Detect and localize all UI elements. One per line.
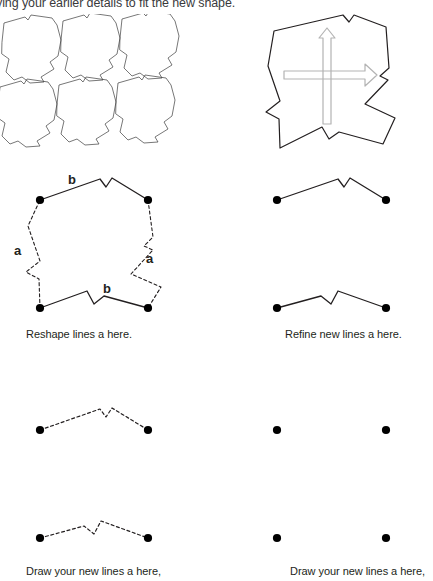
tile-r2c3 xyxy=(116,75,175,143)
endpoint-dot-upper-right xyxy=(382,196,390,204)
edge-b-bottom xyxy=(40,291,148,308)
corner-dots xyxy=(36,196,152,312)
instruction-text: ying your earlier details to fit the new… xyxy=(0,0,235,10)
endpoint-dot-lower-left xyxy=(273,304,281,312)
draw-left-polyline-lower xyxy=(40,521,148,538)
caption-draw-right: Draw your new lines a here, xyxy=(290,565,425,577)
endpoint-dot-lower-right xyxy=(382,304,390,312)
edge-a-left xyxy=(26,200,40,308)
edge-b-top xyxy=(40,178,148,200)
tile-r2c1 xyxy=(0,79,57,147)
endpoint-dot-upper-left xyxy=(273,196,281,204)
endpoint-dot-lower-right xyxy=(144,534,152,542)
draw-right-panel xyxy=(250,395,425,555)
translation-arrow-up xyxy=(319,28,335,124)
refine-lines-panel xyxy=(250,165,425,325)
tessellation-tiles xyxy=(0,14,179,147)
endpoint-dot-lower-left xyxy=(36,534,44,542)
arrow-diagram-panel xyxy=(243,6,433,156)
endpoint-dot-upper-right xyxy=(144,426,152,434)
caption-refine-lines: Refine new lines a here. xyxy=(285,328,402,340)
refine-polyline-upper xyxy=(277,178,386,200)
endpoint-dot-lower-right xyxy=(382,534,390,542)
draw-left-svg xyxy=(0,395,230,555)
endpoint-dot-upper-right xyxy=(382,426,390,434)
draw-left-endpoint-dots xyxy=(36,426,152,542)
edge-label-b-bottom: b xyxy=(103,281,111,296)
caption-reshape-lines: Reshape lines a here. xyxy=(26,328,132,340)
endpoint-dot-lower-left xyxy=(273,534,281,542)
reference-shape-panel xyxy=(0,165,230,325)
endpoint-dot-upper-left xyxy=(36,426,44,434)
corner-dot-bottom-right xyxy=(144,304,152,312)
reference-shape-svg xyxy=(0,165,230,325)
edge-label-a-right: a xyxy=(146,251,153,266)
tessellation-grid-panel xyxy=(0,14,200,149)
corner-dot-top-right xyxy=(144,196,152,204)
refine-endpoint-dots xyxy=(273,196,390,312)
tile-r2c2 xyxy=(57,77,116,145)
caption-draw-left: Draw your new lines a here, xyxy=(26,565,161,577)
edge-label-a-left: a xyxy=(14,243,21,258)
arrow-diagram-svg xyxy=(243,6,433,156)
refine-polyline-lower xyxy=(277,291,386,308)
draw-right-endpoint-dots xyxy=(273,426,390,542)
draw-left-polyline-upper xyxy=(40,408,148,430)
edge-label-b-top: b xyxy=(68,172,76,187)
tile-r1c2 xyxy=(61,14,120,81)
corner-dot-top-left xyxy=(36,196,44,204)
tile-r1c3 xyxy=(120,14,179,79)
draw-left-panel xyxy=(0,395,230,555)
refine-lines-svg xyxy=(250,165,425,325)
endpoint-dot-upper-left xyxy=(273,426,281,434)
corner-dot-bottom-left xyxy=(36,304,44,312)
tessellation-grid-svg xyxy=(0,14,200,149)
draw-right-svg xyxy=(250,395,425,555)
worksheet-page: ying your earlier details to fit the new… xyxy=(0,0,433,581)
tile-r1c1 xyxy=(2,15,61,83)
